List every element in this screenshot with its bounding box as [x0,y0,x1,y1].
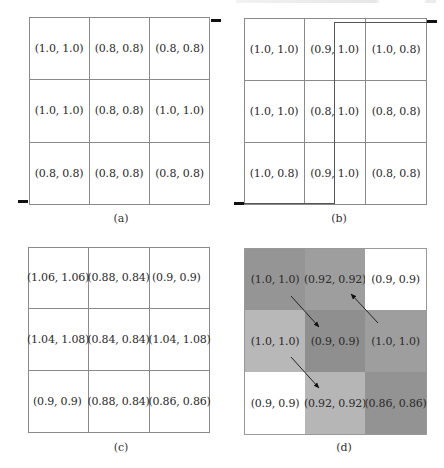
arrows-overlay [0,0,444,468]
arrow-icon [291,357,319,388]
arrow-icon [291,296,319,327]
caption-d: (d) [336,441,352,454]
arrow-icon [351,294,378,323]
